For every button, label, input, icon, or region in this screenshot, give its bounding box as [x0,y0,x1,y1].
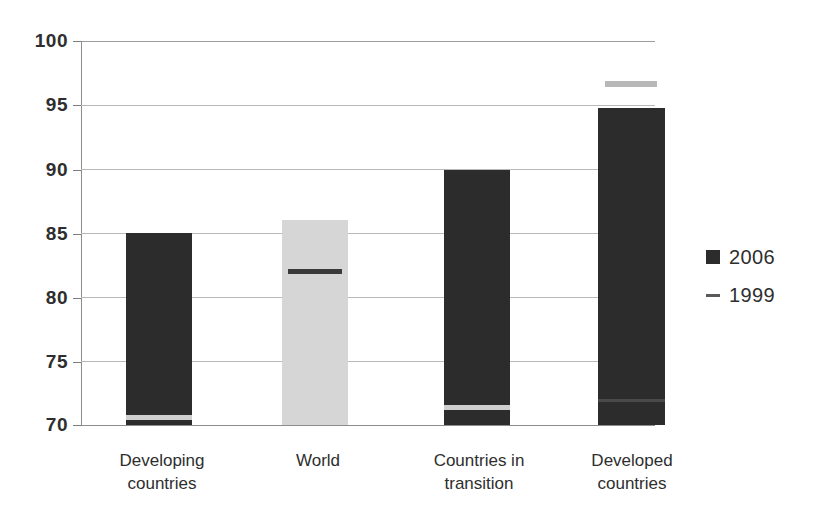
y-tick-label-80: 80 [8,287,68,309]
x-axis-label-countries-in-transition-line1: Countries in [411,449,547,472]
marker-baseline-tint-developed-countries [598,399,665,402]
x-axis-label-developed-countries-line2: countries [566,472,698,495]
y-tick-mark-90 [73,170,81,171]
x-axis-label-developed-countries: Developed countries [566,449,698,495]
y-tick-label-100: 100 [8,30,68,52]
y-tick-mark-85 [73,234,81,235]
x-axis-label-developing-countries-line2: countries [96,472,228,495]
y-tick-label-90: 90 [8,159,68,181]
x-axis-label-developing-countries: Developing countries [96,449,228,495]
x-axis-label-world-line1: World [252,449,384,472]
bar-2006-developed-countries [598,108,665,425]
legend-dash-icon-1999 [706,294,720,297]
marker-1999-developing-countries [126,415,192,420]
x-axis-label-developed-countries-line1: Developed [566,449,698,472]
y-tick-mark-100 [73,41,81,42]
legend-label-1999: 1999 [729,284,775,307]
marker-1999-countries-in-transition [444,405,510,410]
gridline-70-baseline [81,425,655,426]
gridline-95 [81,105,655,106]
bar-chart: 100 95 90 85 80 75 70 [0,0,831,532]
gridline-90 [81,169,655,170]
legend-item-2006[interactable]: 2006 [706,238,826,276]
y-tick-mark-75 [73,362,81,363]
marker-1999-developed-countries [605,81,657,87]
gridline-100 [81,41,655,42]
legend: 2006 1999 [706,238,826,314]
bar-2006-world [282,220,348,425]
legend-square-icon-2006 [706,250,720,264]
x-axis-label-world: World [252,449,384,472]
y-axis-labels: 100 95 90 85 80 75 70 [0,0,68,532]
y-tick-label-95: 95 [8,94,68,116]
bar-2006-developing-countries [126,233,192,425]
x-axis-label-developing-countries-line1: Developing [96,449,228,472]
plot-area [81,41,655,425]
legend-label-2006: 2006 [729,246,775,269]
y-tick-label-75: 75 [8,351,68,373]
marker-1999-world [288,269,342,274]
legend-item-1999[interactable]: 1999 [706,276,826,314]
x-axis-label-countries-in-transition-line2: transition [411,472,547,495]
x-axis-label-countries-in-transition: Countries in transition [411,449,547,495]
y-tick-label-85: 85 [8,223,68,245]
y-tick-label-70: 70 [8,414,68,436]
y-tick-mark-70 [73,425,81,426]
bar-2006-countries-in-transition [444,170,510,425]
y-tick-mark-95 [73,105,81,106]
y-tick-mark-80 [73,298,81,299]
